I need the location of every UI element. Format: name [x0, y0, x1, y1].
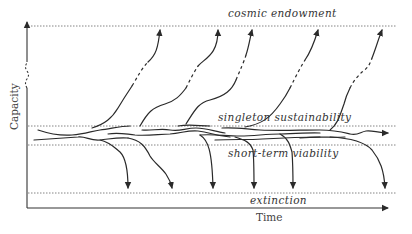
- trajectory-diagram: cosmic endowment singleton sustainabilit…: [0, 0, 412, 234]
- x-axis-label: Time: [256, 211, 283, 223]
- short-term-viability-label: short-term viability: [228, 147, 339, 159]
- singleton-sustainability-label: singleton sustainability: [218, 111, 352, 123]
- y-axis-label: Capacity: [8, 83, 20, 130]
- falling-trajectories: [100, 134, 385, 188]
- cosmic-endowment-label: cosmic endowment: [228, 7, 337, 19]
- y-axis: [26, 22, 29, 208]
- extinction-label: extinction: [250, 194, 307, 206]
